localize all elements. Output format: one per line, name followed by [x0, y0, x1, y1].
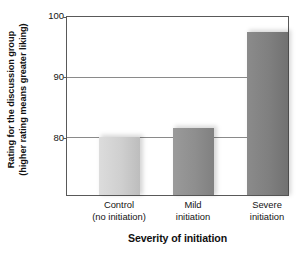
- x-tick-label-severe: Severe initiation: [214, 199, 304, 224]
- y-tick-mark-90: [63, 77, 67, 78]
- y-axis-title-line2: (higher rating means greater liking): [17, 24, 29, 176]
- y-axis-tick-labels: 100 90 80: [36, 0, 64, 253]
- y-tick-label-90: 90: [38, 72, 64, 82]
- y-tick-label-100: 100: [38, 11, 64, 21]
- y-tick-mark-80: [63, 138, 67, 139]
- bar-severe[interactable]: [247, 32, 288, 195]
- x-axis-tick-labels: Control (no initiation) Mild initiation …: [66, 199, 289, 233]
- y-tick-label-80: 80: [38, 133, 64, 143]
- x-tick-label-mild-line1: Mild: [184, 199, 201, 210]
- bar-mild[interactable]: [173, 128, 214, 195]
- x-axis-title: Severity of initiation: [66, 232, 289, 244]
- y-axis-title-line1: Rating for the discussion group: [5, 24, 17, 176]
- y-tick-mark-100: [63, 17, 67, 18]
- bar-chart-figure: Rating for the discussion group (higher …: [0, 0, 304, 253]
- x-tick-label-severe-line1: Severe: [252, 199, 282, 210]
- y-axis-title: Rating for the discussion group (higher …: [0, 0, 34, 200]
- x-tick-label-control-line1: Control: [104, 199, 134, 210]
- bar-control[interactable]: [99, 137, 140, 195]
- plot-area: [66, 16, 289, 196]
- x-tick-label-severe-line2: initiation: [214, 211, 304, 223]
